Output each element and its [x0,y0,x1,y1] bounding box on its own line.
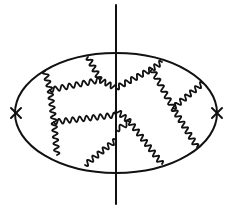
gluon-line [151,69,175,108]
gluon-line [100,80,116,89]
gluon-line [48,90,57,122]
gluon-line [86,57,101,80]
gluon-line [50,78,100,92]
gluon-line [52,122,60,155]
gluon-line [129,122,163,164]
gluon-line [172,108,199,147]
gluon-lines [43,57,203,166]
gluon-line [152,61,162,71]
gluon-line [85,139,116,166]
gluon-line [116,67,152,89]
gluon-line [43,71,52,90]
gluon-line [116,121,130,132]
feynman-diagram [0,0,233,212]
gluon-line [173,82,203,109]
gluon-line [54,113,116,125]
